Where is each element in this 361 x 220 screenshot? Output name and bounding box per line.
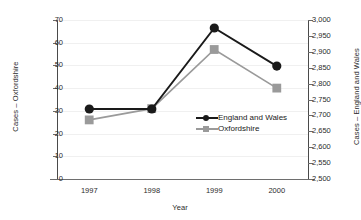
legend-label: England and Wales — [218, 112, 287, 123]
data-point-square — [272, 84, 281, 93]
x-axis-title: Year — [0, 203, 360, 212]
data-point-square — [85, 116, 94, 125]
data-point-circle — [272, 62, 281, 71]
data-point-square — [210, 45, 219, 54]
data-point-circle — [147, 104, 156, 113]
chart-legend: England and WalesOxfordshire — [196, 112, 287, 134]
right-axis-title: Cases – England and Wales — [352, 32, 361, 162]
series-line — [89, 28, 276, 109]
data-point-circle — [85, 104, 94, 113]
series-england-and-wales — [85, 23, 282, 113]
legend-circle-icon — [196, 112, 218, 123]
legend-item: England and Wales — [196, 112, 287, 123]
legend-square-icon — [196, 123, 218, 134]
legend-label: Oxfordshire — [218, 123, 259, 134]
legend-item: Oxfordshire — [196, 123, 287, 134]
left-axis-title: Cases – Oxfordshire — [11, 51, 20, 143]
data-point-circle — [210, 23, 219, 32]
